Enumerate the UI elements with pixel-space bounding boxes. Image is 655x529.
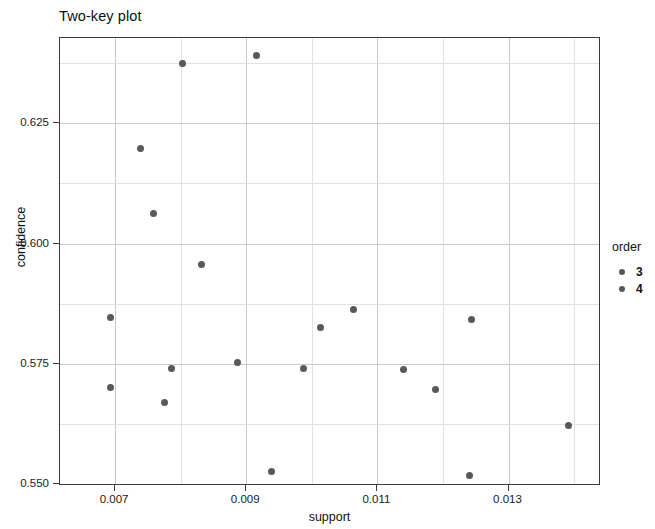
y-tick-mark bbox=[53, 122, 59, 123]
legend-title: order bbox=[612, 240, 655, 254]
data-point bbox=[317, 324, 324, 331]
gridline-horizontal bbox=[60, 484, 599, 485]
data-point bbox=[350, 306, 357, 313]
legend-item-label: 4 bbox=[636, 282, 643, 296]
data-point bbox=[466, 472, 473, 479]
gridline-vertical bbox=[377, 38, 378, 484]
data-point bbox=[107, 314, 114, 321]
y-tick-label: 0.550 bbox=[20, 477, 49, 489]
two-key-scatter-figure: Two-key plot 0.0070.0090.0110.013 0.5500… bbox=[0, 0, 655, 529]
chart-title: Two-key plot bbox=[59, 8, 142, 24]
legend-entries: 34 bbox=[612, 263, 655, 297]
x-tick-mark bbox=[114, 485, 115, 491]
data-point bbox=[432, 386, 439, 393]
data-point bbox=[400, 366, 407, 373]
data-point bbox=[161, 399, 168, 406]
gridline-horizontal bbox=[60, 244, 599, 245]
y-tick-mark bbox=[53, 243, 59, 244]
y-tick-label: 0.625 bbox=[20, 116, 49, 128]
x-tick-mark bbox=[508, 485, 509, 491]
x-tick-label: 0.011 bbox=[362, 493, 390, 505]
gridline-horizontal bbox=[60, 304, 599, 305]
gridline-vertical bbox=[246, 38, 247, 484]
legend-item-4[interactable]: 4 bbox=[619, 280, 655, 297]
x-axis-title: support bbox=[59, 510, 600, 524]
gridline-horizontal bbox=[60, 364, 599, 365]
legend-dot-icon bbox=[619, 286, 625, 292]
y-tick-label: 0.575 bbox=[20, 357, 49, 369]
y-tick-mark bbox=[53, 363, 59, 364]
data-point bbox=[198, 261, 205, 268]
gridline-vertical bbox=[115, 38, 116, 484]
gridline-vertical bbox=[574, 38, 575, 484]
gridline-horizontal bbox=[60, 63, 599, 64]
data-point bbox=[179, 60, 186, 67]
x-tick-label: 0.013 bbox=[493, 493, 522, 505]
data-point bbox=[468, 316, 475, 323]
legend-dot-icon bbox=[619, 269, 625, 275]
legend-item-label: 3 bbox=[636, 265, 643, 279]
y-tick-mark bbox=[53, 483, 59, 484]
data-point bbox=[150, 210, 157, 217]
legend-item-3[interactable]: 3 bbox=[619, 263, 655, 280]
gridline-vertical bbox=[312, 38, 313, 484]
gridline-horizontal bbox=[60, 424, 599, 425]
data-point bbox=[137, 145, 144, 152]
x-tick-label: 0.007 bbox=[100, 493, 129, 505]
x-tick-label: 0.009 bbox=[231, 493, 260, 505]
x-tick-mark bbox=[376, 485, 377, 491]
data-point bbox=[253, 52, 260, 59]
legend: order 34 bbox=[612, 240, 655, 297]
gridline-vertical bbox=[509, 38, 510, 484]
data-point bbox=[565, 422, 572, 429]
data-point bbox=[300, 365, 307, 372]
y-axis-title: confidence bbox=[14, 192, 28, 282]
gridline-vertical bbox=[443, 38, 444, 484]
data-point bbox=[107, 384, 114, 391]
plot-panel bbox=[59, 37, 600, 485]
x-tick-mark bbox=[245, 485, 246, 491]
gridline-horizontal bbox=[60, 183, 599, 184]
gridline-horizontal bbox=[60, 123, 599, 124]
data-point bbox=[234, 359, 241, 366]
data-point bbox=[168, 365, 175, 372]
data-point bbox=[268, 468, 275, 475]
gridline-vertical bbox=[181, 38, 182, 484]
